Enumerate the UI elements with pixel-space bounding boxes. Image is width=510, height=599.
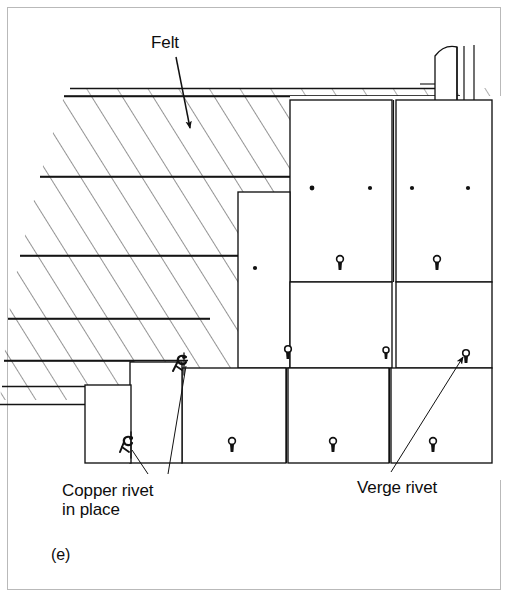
nail-dot bbox=[310, 186, 315, 191]
slate-bottom-mid bbox=[288, 368, 389, 463]
slate-mid-left bbox=[238, 192, 290, 368]
figure-page: Felt Copper rivetin place Verge rivet (e… bbox=[0, 0, 510, 599]
label-felt: Felt bbox=[151, 33, 179, 52]
slate-undercloak-upper bbox=[130, 362, 182, 463]
figure-caption: (e) bbox=[51, 546, 70, 564]
slate-top-left bbox=[290, 100, 392, 282]
label-copper-line2: in place bbox=[62, 500, 120, 519]
label-verge-rivet: Verge rivet bbox=[357, 478, 437, 497]
slate-top-right bbox=[396, 100, 492, 282]
label-copper-rivet: Copper rivetin place bbox=[62, 481, 153, 519]
slate-mid-center bbox=[290, 282, 392, 368]
label-copper-line1: Copper rivet bbox=[62, 481, 153, 500]
nail-dot bbox=[253, 266, 257, 270]
slate-bottom-left bbox=[182, 368, 286, 463]
slate-undercloak-lower bbox=[85, 385, 131, 463]
nail-dot bbox=[410, 186, 414, 190]
slate-bottom-right bbox=[391, 368, 492, 463]
nail-dot bbox=[466, 186, 470, 190]
slate-mid-right bbox=[396, 282, 492, 368]
nail-dot bbox=[368, 186, 372, 190]
